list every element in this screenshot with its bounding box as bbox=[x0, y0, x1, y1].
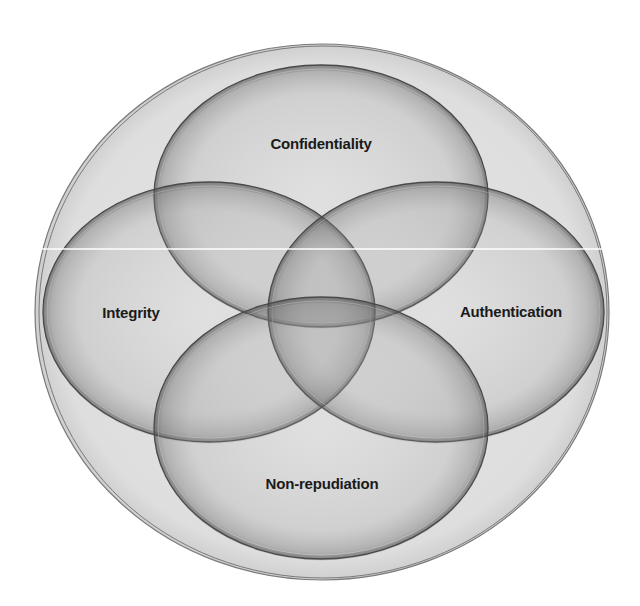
security-venn-diagram: Confidentiality Integrity Authentication… bbox=[0, 0, 640, 606]
set-ellipse-non-repudiation bbox=[154, 297, 488, 559]
label-confidentiality: Confidentiality bbox=[270, 135, 372, 152]
label-integrity: Integrity bbox=[102, 304, 160, 321]
set-non-repudiation bbox=[154, 297, 488, 559]
label-non-repudiation: Non-repudiation bbox=[266, 475, 379, 492]
label-authentication: Authentication bbox=[460, 303, 562, 320]
